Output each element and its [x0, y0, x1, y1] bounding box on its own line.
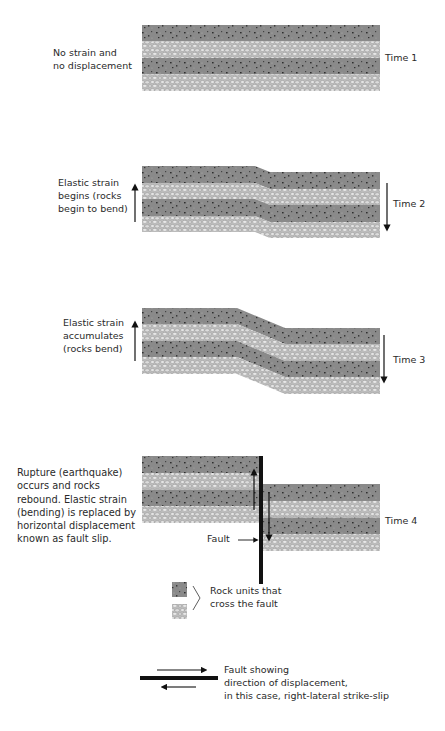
- time-4-right-block: [262, 484, 380, 551]
- stage-3-line: Elastic strain: [63, 316, 124, 329]
- stage-4-line: (bending) is replaced by: [17, 506, 136, 519]
- legend-fault-symbol: [140, 670, 218, 687]
- stage-4-line: rebound. Elastic strain: [17, 493, 136, 506]
- stage-3-description: Elastic strain accumulates (rocks bend): [63, 316, 124, 355]
- stage-2-description: Elastic strain begins (rocks begin to be…: [58, 176, 128, 215]
- time-2-rock-block: [142, 166, 380, 238]
- legend-rock-swatches: [172, 582, 200, 619]
- time-3-label: Time 3: [393, 354, 425, 365]
- time-1-rock-block: [142, 25, 380, 91]
- legend-fault-text: Fault showing direction of displacement,…: [224, 663, 389, 702]
- stage-2-line: Elastic strain: [58, 176, 128, 189]
- stage-1-line: No strain and: [53, 46, 132, 59]
- stage-2-line: begin to bend): [58, 202, 128, 215]
- time-3-rock-block: [142, 308, 380, 394]
- time-2-label: Time 2: [393, 198, 425, 209]
- time-4-label: Time 4: [385, 515, 417, 526]
- legend-fault-line: Fault showing: [224, 663, 389, 676]
- stage-4-description: Rupture (earthquake) occurs and rocks re…: [17, 466, 136, 546]
- legend-rock-line: Rock units that: [210, 584, 281, 597]
- stage-4-line: occurs and rocks: [17, 479, 136, 492]
- legend-fault-line: direction of displacement,: [224, 676, 389, 689]
- stage-2-line: begins (rocks: [58, 189, 128, 202]
- fault-line: [259, 456, 263, 584]
- stage-3-line: (rocks bend): [63, 342, 124, 355]
- stage-4-line: known as fault slip.: [17, 532, 136, 545]
- time-4-left-block: [142, 456, 260, 523]
- legend-fault-line: in this case, right-lateral strike-slip: [224, 689, 389, 702]
- stage-1-line: no displacement: [53, 59, 132, 72]
- elastic-rebound-diagram: [0, 0, 445, 731]
- stage-1-description: No strain and no displacement: [53, 46, 132, 72]
- legend-rock-units-text: Rock units that cross the fault: [210, 584, 281, 610]
- fault-label: Fault: [207, 533, 230, 544]
- stage-3-line: accumulates: [63, 329, 124, 342]
- legend-rock-line: cross the fault: [210, 597, 281, 610]
- time-1-label: Time 1: [385, 52, 417, 63]
- stage-4-line: horizontal displacement: [17, 519, 136, 532]
- stage-4-line: Rupture (earthquake): [17, 466, 136, 479]
